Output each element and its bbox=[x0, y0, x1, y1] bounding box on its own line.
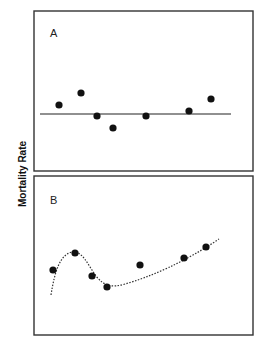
panel-a-letter: A bbox=[50, 27, 58, 39]
panel-a-frame bbox=[34, 11, 253, 171]
data-point bbox=[49, 266, 56, 273]
data-point bbox=[180, 254, 187, 261]
figure: Mortality Rate A B bbox=[0, 0, 265, 348]
data-point bbox=[202, 243, 209, 250]
data-point bbox=[71, 249, 78, 256]
data-point bbox=[109, 124, 116, 131]
panel-a: A bbox=[34, 11, 253, 171]
data-point bbox=[88, 272, 95, 279]
data-point bbox=[136, 261, 143, 268]
data-point bbox=[77, 89, 84, 96]
panel-b-frame bbox=[34, 176, 253, 335]
data-point bbox=[93, 112, 100, 119]
data-point bbox=[142, 112, 149, 119]
panel-b-letter: B bbox=[50, 194, 57, 206]
data-point bbox=[103, 283, 110, 290]
panel-b: B bbox=[34, 176, 253, 335]
y-axis-label: Mortality Rate bbox=[17, 141, 28, 207]
data-point bbox=[207, 95, 214, 102]
data-point bbox=[185, 107, 192, 114]
data-point bbox=[55, 101, 62, 108]
